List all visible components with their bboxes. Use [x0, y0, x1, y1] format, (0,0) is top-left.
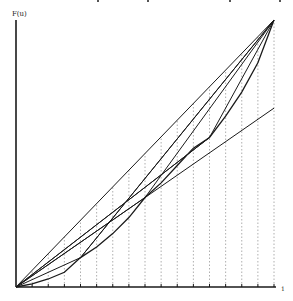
chord-extended [16, 108, 274, 287]
lorenz-diagram: F(u) 1 [0, 0, 293, 301]
y-axis-label: F(u) [12, 11, 27, 18]
x-axis-end-label: 1 [281, 286, 285, 292]
diagram-canvas [0, 0, 293, 301]
equality-diagonal [16, 20, 274, 287]
chord-to-end [210, 20, 275, 137]
chord-quarter-to-end [81, 20, 275, 258]
